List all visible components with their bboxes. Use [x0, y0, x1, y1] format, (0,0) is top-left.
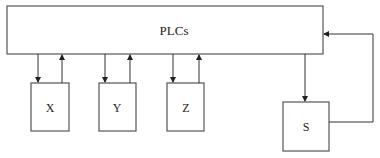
plcs-block: PLCs: [7, 6, 323, 54]
device-z: Z: [167, 54, 204, 131]
device-z-label: Z: [182, 101, 189, 115]
device-y: Y: [99, 54, 136, 131]
feedback-arrow-s-to-plc: [324, 34, 373, 122]
plc-diagram: PLCs X Y Z S: [0, 0, 380, 158]
device-x-label: X: [46, 101, 55, 115]
device-s-label: S: [303, 120, 310, 134]
device-x: X: [31, 54, 69, 131]
plcs-label: PLCs: [160, 23, 189, 38]
device-y-label: Y: [113, 101, 122, 115]
